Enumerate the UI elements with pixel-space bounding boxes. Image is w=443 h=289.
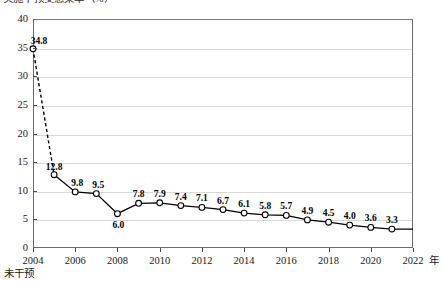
x-axis-tick-mark	[244, 248, 245, 252]
data-point-label: 7.4	[175, 192, 187, 202]
data-point-label: 3.6	[365, 213, 377, 223]
series-line-solid	[54, 175, 413, 229]
data-point-label: 12.8	[46, 162, 63, 172]
data-point-marker	[93, 191, 99, 197]
x-axis-tick-label: 2006	[59, 255, 91, 266]
x-axis-tick-label: 2016	[270, 255, 302, 266]
data-point-marker	[178, 203, 184, 209]
data-point-marker	[241, 210, 247, 216]
y-axis-tick-label: 5	[0, 214, 28, 224]
data-point-marker	[262, 212, 268, 218]
x-axis-tick-label: 2012	[186, 255, 218, 266]
x-axis-tick-label: 2020	[355, 255, 387, 266]
data-point-label: 6.7	[217, 196, 229, 206]
data-point-marker	[157, 200, 163, 206]
x-axis-unit-label: 年	[429, 255, 439, 266]
y-axis-tick-label: 35	[0, 43, 28, 53]
data-point-marker	[368, 225, 374, 231]
data-point-marker	[347, 222, 353, 228]
y-axis-tick-label: 30	[0, 71, 28, 81]
data-point-label: 6.1	[238, 199, 250, 209]
series-layer	[33, 19, 413, 248]
data-point-label: 9.5	[92, 180, 104, 190]
y-axis-tick-mark	[33, 105, 37, 106]
data-point-label: 34.8	[31, 36, 48, 46]
y-axis-tick-mark	[33, 191, 37, 192]
y-axis-tick-label: 20	[0, 129, 28, 139]
data-point-label: 6.0	[112, 220, 124, 230]
x-axis-tick-mark	[117, 248, 118, 252]
x-axis-tick-mark	[413, 248, 414, 252]
x-axis-tick-mark	[202, 248, 203, 252]
x-axis-tick-mark	[371, 248, 372, 252]
x-axis-tick-label: 2004	[17, 255, 49, 266]
data-point-marker	[389, 226, 395, 232]
data-point-label: 7.9	[154, 189, 166, 199]
data-point-marker	[72, 189, 78, 195]
data-point-marker	[283, 213, 289, 219]
data-point-label: 5.7	[280, 201, 292, 211]
series-markers	[30, 46, 395, 232]
data-point-marker	[115, 211, 121, 217]
x-axis-tick-mark	[160, 248, 161, 252]
baseline-annotation: 未干预	[4, 268, 34, 279]
data-point-marker	[305, 217, 311, 223]
data-point-marker	[220, 207, 226, 213]
x-axis-tick-label: 2008	[101, 255, 133, 266]
chart-title: 实施干预受感染率（%）	[3, 0, 114, 5]
y-axis-tick-mark	[33, 162, 37, 163]
x-axis-tick-label: 2022	[397, 255, 429, 266]
data-point-marker	[51, 172, 57, 178]
x-axis-tick-label: 2018	[313, 255, 345, 266]
x-axis-tick-mark	[286, 248, 287, 252]
data-point-label: 4.0	[344, 211, 356, 221]
x-axis-tick-mark	[75, 248, 76, 252]
data-point-marker	[199, 205, 205, 211]
data-point-marker	[136, 200, 142, 206]
x-axis-tick-mark	[329, 248, 330, 252]
y-axis-tick-label: 25	[0, 100, 28, 110]
data-point-label: 7.8	[133, 189, 145, 199]
data-point-label: 4.9	[301, 206, 313, 216]
y-axis-tick-label: 40	[0, 14, 28, 24]
data-point-label: 3.3	[386, 215, 398, 225]
y-axis-tick-mark	[33, 76, 37, 77]
data-point-label: 9.8	[71, 178, 83, 188]
y-axis-tick-mark	[33, 134, 37, 135]
data-point-label: 4.5	[323, 208, 335, 218]
data-point-label: 5.8	[259, 201, 271, 211]
series-line-dashed	[33, 49, 54, 175]
data-point-marker	[326, 219, 332, 225]
x-axis-tick-mark	[33, 248, 34, 252]
x-axis-tick-label: 2010	[144, 255, 176, 266]
y-axis-tick-label: 0	[0, 243, 28, 253]
y-axis-tick-mark	[33, 48, 37, 49]
y-axis-tick-label: 15	[0, 157, 28, 167]
y-axis-tick-mark	[33, 219, 37, 220]
x-axis-tick-label: 2014	[228, 255, 260, 266]
data-point-label: 7.1	[196, 193, 208, 203]
y-axis-tick-label: 10	[0, 186, 28, 196]
